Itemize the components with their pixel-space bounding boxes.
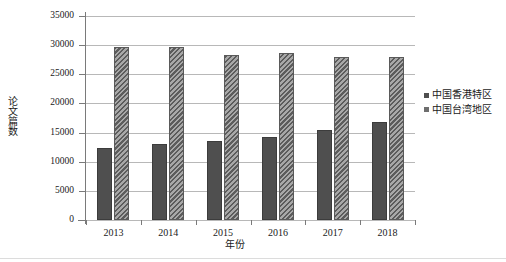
gridline: [86, 16, 415, 17]
x-axis-tick-mark: [141, 220, 142, 225]
y-axis-tick-label: 25000: [50, 69, 74, 79]
bottom-divider: [0, 258, 506, 259]
y-axis-tick-mark: [79, 162, 85, 163]
bar: [224, 55, 239, 220]
legend-swatch-icon: [424, 107, 429, 112]
x-axis-tick-label: 2014: [143, 228, 193, 238]
y-axis-tick-mark: [79, 133, 85, 134]
y-axis-tick-label: 15000: [50, 128, 74, 138]
bar-chart: 论文篇数 05000100001500020000250003000035000…: [0, 0, 506, 262]
chart-legend: 中国香港特区中国台湾地区: [424, 88, 492, 117]
y-axis-tick-mark: [79, 74, 85, 75]
y-axis-tick-mark: [79, 103, 85, 104]
legend-item: 中国台湾地区: [424, 103, 492, 118]
bar: [152, 144, 167, 220]
x-axis-tick-label: 2013: [88, 228, 138, 238]
y-axis-tick-mark: [79, 220, 85, 221]
x-axis-tick-label: 2016: [253, 228, 303, 238]
y-axis-tick-mark: [79, 191, 85, 192]
x-axis-title: 年份: [0, 240, 470, 250]
bar: [169, 47, 184, 220]
gridline: [86, 191, 415, 192]
y-axis-tick-label: 5000: [55, 186, 74, 196]
plot-area: [86, 16, 415, 220]
x-axis-tick-mark: [196, 220, 197, 225]
x-axis-tick-mark: [360, 220, 361, 225]
y-axis-tick-label: 10000: [50, 157, 74, 167]
y-axis-tick-mark: [79, 16, 85, 17]
bar: [262, 137, 277, 220]
bar: [389, 57, 404, 220]
bar: [207, 141, 222, 220]
gridline: [86, 103, 415, 104]
x-axis-tick-mark: [86, 220, 87, 225]
x-axis-tick-label: 2017: [308, 228, 358, 238]
y-axis-title: 论文篇数: [6, 96, 16, 136]
y-axis-tick-label: 35000: [50, 11, 74, 21]
x-axis-tick-mark: [305, 220, 306, 225]
y-axis-tick-label: 0: [69, 215, 74, 225]
legend-item: 中国香港特区: [424, 88, 492, 103]
legend-item-label: 中国香港特区: [432, 88, 492, 103]
bar: [279, 53, 294, 220]
y-axis-tick-label: 20000: [50, 98, 74, 108]
x-axis-tick-label: 2015: [198, 228, 248, 238]
bar: [97, 148, 112, 220]
x-axis-tick-label: 2018: [363, 228, 413, 238]
gridline: [86, 45, 415, 46]
gridline: [86, 133, 415, 134]
bar: [334, 57, 349, 220]
gridline: [86, 162, 415, 163]
bar: [317, 130, 332, 220]
legend-swatch-icon: [424, 93, 429, 98]
bar: [372, 122, 387, 220]
bar: [114, 47, 129, 220]
y-axis-tick-label: 30000: [50, 40, 74, 50]
y-axis-tick-mark: [79, 45, 85, 46]
x-axis-tick-mark: [415, 220, 416, 225]
legend-item-label: 中国台湾地区: [432, 103, 492, 118]
gridline: [86, 74, 415, 75]
x-axis-tick-mark: [251, 220, 252, 225]
